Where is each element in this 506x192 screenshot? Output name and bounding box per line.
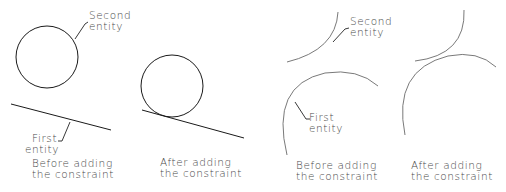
panel-line-circle-after: After adding the constraint	[141, 55, 244, 179]
caption-line2: the constraint	[32, 168, 114, 180]
second-entity-arc	[287, 12, 338, 62]
second-entity-circle	[16, 26, 78, 88]
first-entity-leader	[58, 122, 70, 141]
tangent-circle	[141, 55, 203, 117]
first-entity-label-line2: entity	[309, 122, 343, 134]
first-entity-line	[11, 104, 111, 130]
panel-arc-arc-before: Second entity First entity Before adding…	[283, 12, 392, 182]
tangent-small-arc	[415, 10, 464, 61]
caption-line2: the constraint	[411, 170, 493, 182]
second-entity-label-line2: entity	[89, 20, 123, 32]
tangent-line	[142, 110, 244, 138]
second-entity-leader	[333, 28, 349, 42]
second-entity-label-line2: entity	[350, 26, 384, 38]
tangent-constraint-diagram: Second entity First entity Before adding…	[0, 0, 506, 192]
caption-line2: the constraint	[296, 170, 378, 182]
tangent-large-arc	[403, 54, 496, 135]
second-entity-leader	[75, 22, 88, 39]
panel-arc-arc-after: After adding the constraint	[403, 10, 496, 182]
first-entity-label-line2: entity	[25, 143, 59, 155]
caption-line2: the constraint	[160, 167, 242, 179]
first-entity-leader	[295, 102, 310, 119]
panel-line-circle-before: Second entity First entity Before adding…	[11, 9, 131, 180]
